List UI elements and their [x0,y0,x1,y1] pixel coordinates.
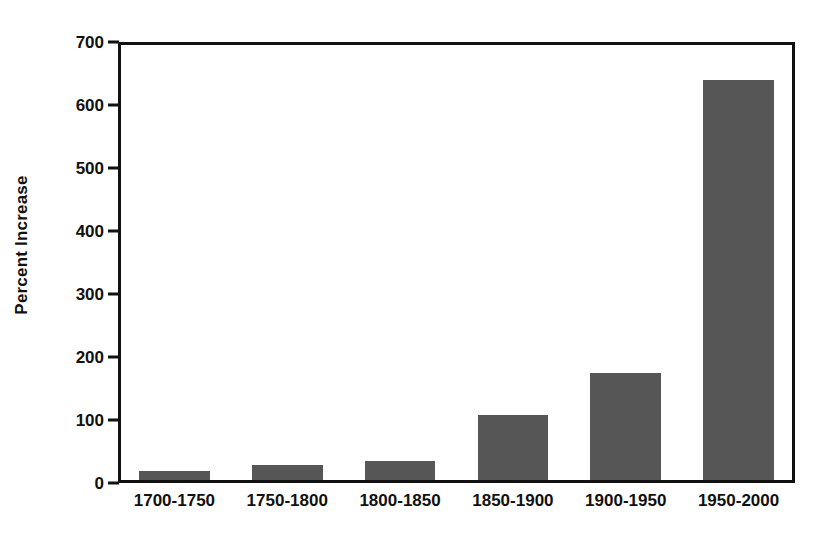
x-axis-tick-label: 1800-1850 [344,492,457,511]
bar [365,461,436,480]
x-axis-tick-label: 1750-1800 [231,492,344,511]
x-axis-tick-label: 1850-1900 [457,492,570,511]
bars-layer [121,45,792,480]
bar [478,415,549,480]
x-axis-tick-labels: 1700-17501750-18001800-18501850-19001900… [118,492,795,522]
x-axis-tick-label: 1950-2000 [682,492,795,511]
bar [139,471,210,480]
x-axis-tick-label: 1900-1950 [569,492,682,511]
bar [252,465,323,480]
bar-chart: Percent Increase 0100200300400500600700 … [0,0,824,543]
bar [703,80,774,480]
bar [590,373,661,480]
x-axis-tick-label: 1700-1750 [118,492,231,511]
